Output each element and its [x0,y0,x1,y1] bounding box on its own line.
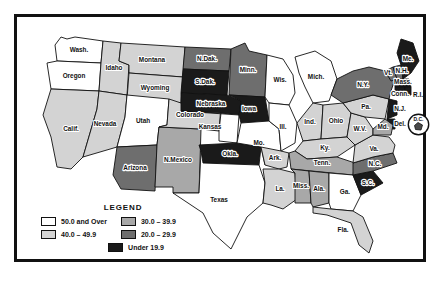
state-label-PA: Pa. [361,103,371,110]
state-label-NE: Nebraska [197,100,226,107]
legend-label: 50.0 and Over [61,218,107,225]
state-label-SD: S.Dak. [195,78,215,85]
state-label-ID: Idaho [105,64,122,71]
state-label-MT: Montana [139,56,166,63]
state-label-CA: Calif. [63,125,79,132]
legend-swatch [108,243,123,252]
state-label-LA: La. [275,185,284,192]
state-label-OK: Okla. [222,150,238,157]
dc-inset-label: D.C. [414,116,425,122]
state-label-AL: Ala. [313,185,325,192]
state-label-WV: W.V. [354,125,367,132]
legend-label: 40.0 – 49.9 [61,231,96,238]
legend-columns: 50.0 and Over 40.0 – 49.9 30.0 – 39.9 20… [35,217,211,239]
state-label-OH: Ohio [329,117,344,124]
state-label-NM: N.Mexico [164,156,192,163]
state-label-SC: S.C. [362,179,375,186]
state-label-IA: Iowa [242,105,257,112]
state-label-OR: Oregon [63,72,86,80]
map-figure: Wash.OregonIdahoMontanaWyomingCalif.Neva… [14,14,426,262]
state-label-NY: N.Y. [357,81,369,88]
legend-label: 30.0 – 39.9 [141,218,176,225]
state-label-AR: Ark. [269,154,282,161]
state-label-VA: Va. [369,145,378,152]
legend-item[interactable]: 50.0 and Over [41,217,107,226]
legend-item[interactable]: 20.0 – 29.9 [121,230,176,239]
state-label-NC: N.C. [369,160,382,167]
state-label-NJ: N.J. [394,105,406,112]
state-label-KY: Ky. [320,144,330,152]
state-label-VT: Vt. [384,69,392,76]
state-label-TN: Tenn. [314,159,331,166]
state-label-RI: R.I. [413,91,423,98]
legend-label: Under 19.9 [128,244,164,251]
legend-column-left: 50.0 and Over 40.0 – 49.9 [41,217,107,239]
state-label-MO: Mo. [253,139,264,146]
legend-item[interactable]: 40.0 – 49.9 [41,230,107,239]
state-label-GA: Ga. [340,188,351,195]
map-legend: LEGEND 50.0 and Over 40.0 – 49.9 30.0 – … [35,203,211,265]
legend-label: 20.0 – 29.9 [141,231,176,238]
state-label-MS: Miss. [293,182,309,189]
dc-inset: D.C. [407,113,430,136]
state-label-NH: N.H. [396,67,409,74]
state-label-NV: Nevada [94,120,117,127]
state-label-MN: Minn. [240,66,257,73]
state-label-KS: Kansas [199,123,222,130]
legend-item[interactable]: 30.0 – 39.9 [121,217,176,226]
state-label-ME: Me. [403,55,414,62]
state-label-CO: Colorado [176,111,204,118]
legend-swatch [41,230,56,239]
state-label-CT: Conn. [391,90,409,97]
legend-item[interactable]: Under 19.9 [35,243,211,252]
state-label-MD: Md. [377,123,388,130]
state-label-WY: Wyoming [141,84,170,92]
legend-swatch [121,217,136,226]
legend-title: LEGEND [35,203,211,212]
state-label-IL: Ill. [279,123,286,130]
state-label-IN: Ind. [304,118,316,125]
state-label-TX: Texas [210,196,228,203]
legend-swatch [121,230,136,239]
legend-column-right: 30.0 – 39.9 20.0 – 29.9 [121,217,176,239]
state-label-AZ: Arizona [123,164,147,171]
legend-swatch [41,217,56,226]
state-label-MA: Mass. [394,78,412,85]
state-label-ND: N.Dak. [197,55,217,62]
state-label-UT: Utah [136,117,150,124]
state-label-FL: Fla. [337,226,348,233]
state-label-WI: Wis. [273,76,286,83]
state-label-MI: Mich. [308,73,325,80]
state-label-WA: Wash. [70,46,89,53]
state-label-DE: Del. [394,120,406,127]
